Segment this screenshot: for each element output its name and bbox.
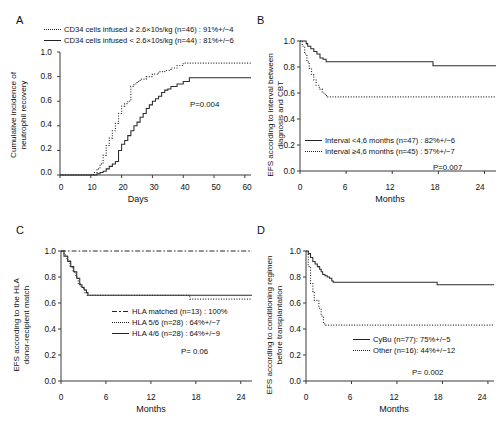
panel-a: A Cumulative incidence of neutrophil rec… <box>0 0 255 210</box>
kaplan-meier-figure: A Cumulative incidence of neutrophil rec… <box>0 0 499 422</box>
panel-c-plot <box>0 210 255 422</box>
panel-d: D EFS according to conditioning regimen … <box>255 210 499 422</box>
panel-b: B EFS according to interval between diag… <box>255 0 499 210</box>
panel-c: C EFS according to the HLA donor-recipie… <box>0 210 255 422</box>
panel-a-plot <box>0 0 255 210</box>
panel-b-plot <box>255 0 499 210</box>
panel-d-plot <box>255 210 499 422</box>
